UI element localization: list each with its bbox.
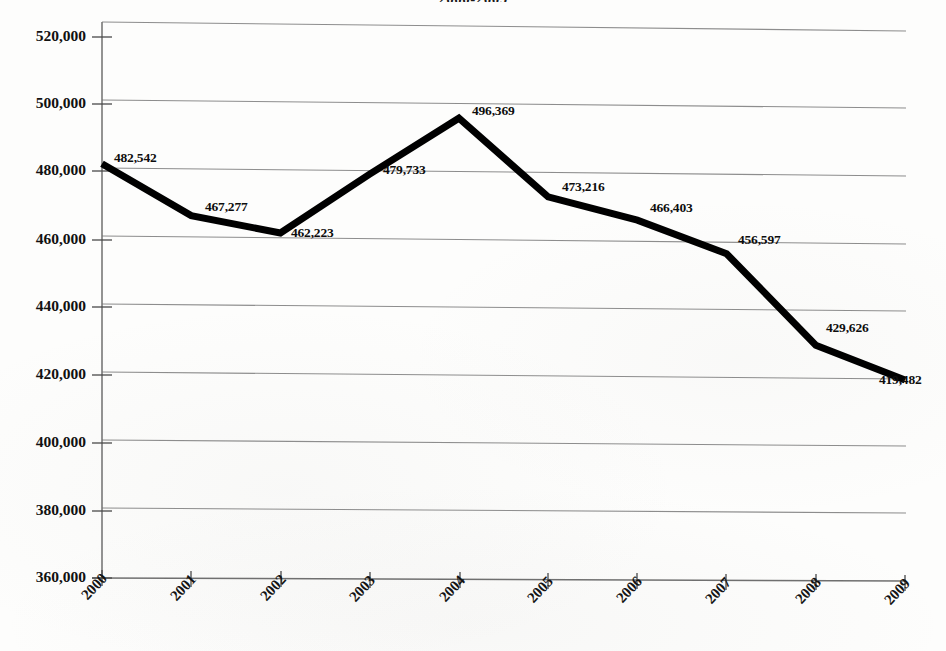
point-label-2005: 473,216 [562,179,604,195]
ytick-label-460000: 460,000 [4,230,86,248]
plot-area [0,0,946,651]
point-label-2002: 462,223 [291,225,333,241]
ytick-label-360000: 360,000 [4,568,86,586]
ytick-label-500000: 500,000 [4,94,86,112]
point-label-2001: 467,277 [205,199,247,215]
chart-page: 2000-2009 [0,0,946,651]
gridline-520000 [102,22,906,31]
gridline-420000 [102,372,906,379]
ytick-label-480000: 480,000 [4,161,86,179]
point-label-2009: 419,482 [879,372,921,388]
gridline-480000 [102,168,906,176]
ytick-label-440000: 440,000 [4,297,86,315]
gridlines [102,22,906,513]
point-label-2006: 466,403 [650,200,692,216]
data-line-series [102,118,905,380]
x-axis [92,578,906,581]
point-label-2008: 429,626 [826,320,868,336]
point-label-2003: 479,733 [383,162,425,178]
point-label-2000: 482,542 [114,150,156,166]
ytick-label-380000: 380,000 [4,501,86,519]
point-label-2007: 456,597 [738,232,780,248]
point-label-2004: 496,369 [472,103,514,119]
ytick-label-400000: 400,000 [4,433,86,451]
gridline-400000 [102,440,906,446]
gridline-380000 [102,508,906,513]
ytick-label-520000: 520,000 [4,27,86,45]
ytick-label-420000: 420,000 [4,365,86,383]
gridline-460000 [102,236,906,244]
